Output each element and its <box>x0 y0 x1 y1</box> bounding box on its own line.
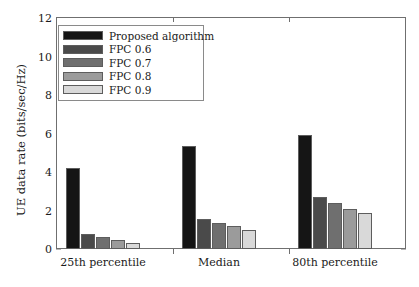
x-tick-mark <box>289 17 290 22</box>
bar <box>212 223 226 249</box>
y-tick-label: 0 <box>0 243 52 256</box>
y-tick-label: 2 <box>0 204 52 217</box>
legend-swatch <box>63 45 103 54</box>
bar <box>313 197 327 249</box>
bar <box>111 240 125 249</box>
bar <box>227 226 241 249</box>
bar <box>182 146 196 249</box>
bar <box>298 135 312 249</box>
x-tick-mark <box>289 249 290 254</box>
bar <box>358 213 372 249</box>
x-tick-label-3: 80th percentile <box>292 256 378 269</box>
bar <box>328 203 342 249</box>
y-tick-label: 12 <box>0 12 52 25</box>
bar <box>242 230 256 249</box>
bar <box>343 209 357 249</box>
y-tick-label: 8 <box>0 89 52 102</box>
y-tick-label: 6 <box>0 127 52 140</box>
y-tick-label: 10 <box>0 50 52 63</box>
legend-label: FPC 0.6 <box>109 44 151 55</box>
bar <box>66 168 80 249</box>
legend-label: Proposed algorithm <box>109 31 214 42</box>
legend-swatch <box>63 72 103 81</box>
chart-root: UE data rate (bits/sec/Hz) 024681012 25t… <box>0 0 419 287</box>
legend-label: FPC 0.8 <box>109 71 151 82</box>
legend-item: FPC 0.8 <box>63 70 199 84</box>
legend-swatch <box>63 58 103 67</box>
bar-group <box>298 18 372 249</box>
x-tick-mark <box>173 249 174 254</box>
legend-swatch <box>63 85 103 94</box>
legend-swatch <box>63 31 103 40</box>
legend-item: Proposed algorithm <box>63 29 199 43</box>
bar <box>126 243 140 249</box>
x-tick-label-1: 25th percentile <box>60 256 146 269</box>
x-tick-mark <box>173 17 174 22</box>
legend-item: FPC 0.9 <box>63 83 199 97</box>
bar <box>197 219 211 249</box>
bar <box>81 234 95 249</box>
legend-label: FPC 0.7 <box>109 58 151 69</box>
legend-item: FPC 0.6 <box>63 43 199 57</box>
y-tick-label: 4 <box>0 166 52 179</box>
legend-label: FPC 0.9 <box>109 85 151 96</box>
bar <box>96 237 110 249</box>
legend-item: FPC 0.7 <box>63 56 199 70</box>
legend: Proposed algorithmFPC 0.6FPC 0.7FPC 0.8F… <box>58 25 204 101</box>
x-tick-label-2: Median <box>198 256 240 269</box>
